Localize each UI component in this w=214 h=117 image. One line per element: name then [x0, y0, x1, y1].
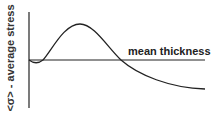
y-axis-label-text: <σ> - average stress	[4, 4, 16, 111]
diagram-canvas	[0, 0, 214, 117]
y-axis-label: <σ> - average stress	[1, 6, 19, 110]
stress-thickness-diagram: <σ> - average stress mean thickness	[0, 0, 214, 117]
baseline-label: mean thickness	[128, 45, 211, 57]
